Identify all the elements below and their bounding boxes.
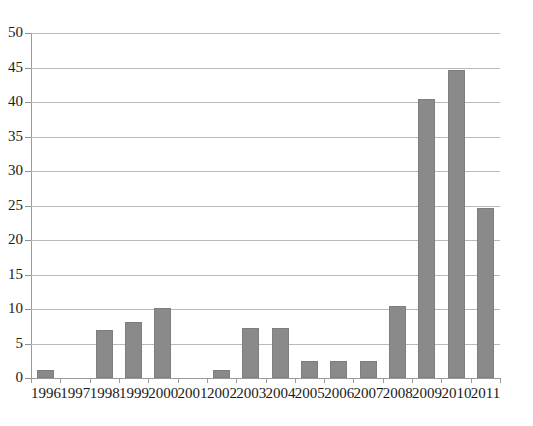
x-axis-tick — [471, 378, 472, 383]
x-axis-tick-label: 2007 — [353, 386, 382, 401]
y-axis-tick-label: 0 — [1, 370, 23, 385]
y-axis-tick-label: 20 — [1, 232, 23, 247]
x-axis-tick-label: 2011 — [471, 386, 500, 401]
x-axis-tick-label: 1998 — [90, 386, 119, 401]
y-axis-tick-label: 40 — [1, 94, 23, 109]
x-axis-tick — [353, 378, 354, 383]
x-axis-tick-label: 2000 — [148, 386, 177, 401]
x-axis-tick-label: 2003 — [236, 386, 265, 401]
bar — [448, 70, 465, 378]
x-axis-tick — [178, 378, 179, 383]
x-axis-tick — [207, 378, 208, 383]
x-axis-tick — [119, 378, 120, 383]
bar — [96, 330, 113, 378]
x-axis-tick — [383, 378, 384, 383]
x-axis-tick-label: 2004 — [266, 386, 295, 401]
y-axis-tick-label: 35 — [1, 129, 23, 144]
x-axis-tick-label: 2001 — [178, 386, 207, 401]
bar — [389, 306, 406, 378]
bar — [37, 370, 54, 378]
x-axis-tick-label: 2005 — [295, 386, 324, 401]
bar — [360, 361, 377, 378]
x-axis-tick — [148, 378, 149, 383]
y-axis-tick-label: 50 — [1, 25, 23, 40]
bar — [418, 99, 435, 378]
x-axis-tick-label: 2006 — [324, 386, 353, 401]
x-axis-tick-label: 2008 — [383, 386, 412, 401]
x-axis-tick — [295, 378, 296, 383]
bar — [272, 328, 289, 378]
x-axis-tick — [324, 378, 325, 383]
bar — [301, 361, 318, 378]
bar — [125, 322, 142, 378]
plot-area — [31, 33, 500, 378]
x-axis-tick — [412, 378, 413, 383]
x-axis-tick — [441, 378, 442, 383]
x-axis-tick — [266, 378, 267, 383]
bar — [330, 361, 347, 378]
x-axis-tick-label: 2009 — [412, 386, 441, 401]
y-axis-tick-label: 10 — [1, 301, 23, 316]
y-axis-tick-label: 5 — [1, 336, 23, 351]
bar — [242, 328, 259, 378]
y-axis-tick-label: 15 — [1, 267, 23, 282]
x-axis-tick — [500, 378, 501, 383]
x-axis-tick — [60, 378, 61, 383]
x-axis-tick — [236, 378, 237, 383]
bar — [213, 370, 230, 378]
y-axis-labels: 05101520253035404550 — [0, 0, 23, 426]
y-axis-tick-label: 25 — [1, 198, 23, 213]
y-axis-tick-label: 45 — [1, 60, 23, 75]
x-axis-tick-label: 2010 — [441, 386, 470, 401]
bar-chart: 05101520253035404550 1996199719981999200… — [0, 0, 533, 426]
x-axis-tick — [90, 378, 91, 383]
x-axis-tick-label: 1999 — [119, 386, 148, 401]
x-axis-tick-label: 2002 — [207, 386, 236, 401]
bar — [154, 308, 171, 378]
y-axis-tick-label: 30 — [1, 163, 23, 178]
x-axis-tick-label: 1996 — [31, 386, 60, 401]
x-axis-tick — [31, 378, 32, 383]
x-axis-tick-label: 1997 — [60, 386, 89, 401]
bar — [477, 208, 494, 378]
